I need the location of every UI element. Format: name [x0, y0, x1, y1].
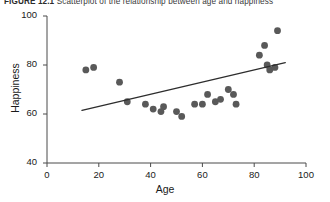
figure-root: FIGURE 12.1 Scatterplot of the relations…: [0, 0, 330, 202]
data-point: [261, 42, 268, 49]
x-tick-label: 100: [291, 169, 321, 180]
data-point: [160, 103, 167, 110]
trend-line: [82, 63, 285, 111]
x-axis-title: Age: [0, 183, 330, 195]
data-point: [233, 101, 240, 108]
x-tick-label: 0: [32, 169, 62, 180]
x-tick-label: 80: [239, 169, 269, 180]
trend-line-group: [82, 63, 285, 111]
data-points-group: [82, 27, 280, 120]
y-tick-label: 100: [7, 9, 37, 20]
x-tick-label: 60: [187, 169, 217, 180]
data-point: [150, 106, 157, 113]
data-point: [256, 52, 263, 59]
y-tick-label: 40: [7, 156, 37, 167]
data-point: [178, 113, 185, 120]
data-point: [191, 101, 198, 108]
x-tick-label: 20: [84, 169, 114, 180]
x-tick-label: 40: [136, 169, 166, 180]
data-point: [274, 27, 281, 34]
data-point: [217, 96, 224, 103]
data-point: [116, 79, 123, 86]
y-axis-title: Happiness: [9, 51, 21, 125]
data-point: [204, 91, 211, 98]
data-point: [142, 101, 149, 108]
data-point: [230, 91, 237, 98]
data-point: [90, 64, 97, 71]
data-point: [225, 86, 232, 93]
data-point: [82, 67, 89, 74]
data-point: [199, 101, 206, 108]
data-point: [173, 108, 180, 115]
axes-group: [43, 16, 306, 167]
